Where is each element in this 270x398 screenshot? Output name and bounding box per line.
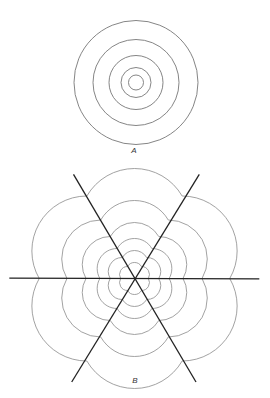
figure-b-label: B (132, 376, 137, 385)
tangent-arc (32, 196, 87, 279)
tangent-arc (97, 279, 117, 309)
tangent-arc (168, 279, 207, 338)
tangent-arc (87, 169, 182, 196)
tangent-arc (182, 279, 237, 362)
tangent-arc (182, 196, 237, 279)
tangent-arc (62, 279, 101, 338)
tangent-arc (101, 337, 169, 356)
tangent-arc (128, 291, 142, 295)
tangent-arc (120, 279, 128, 291)
concentric-circles-figure (74, 21, 198, 145)
tangent-arc (117, 239, 152, 249)
tangent-arc (82, 279, 110, 321)
figure-a-label: A (131, 146, 136, 155)
tangent-arc (110, 321, 159, 335)
tangent-arc (152, 279, 172, 309)
tangent-arc (159, 237, 187, 279)
diagram-canvas (0, 0, 270, 398)
tangent-arc (168, 220, 207, 279)
tangent-arc (122, 251, 146, 258)
tangent-arc (62, 220, 101, 279)
tangent-arc (152, 249, 172, 279)
tangent-arc (117, 309, 152, 319)
tangent-arc (108, 258, 122, 279)
concentric-circle (121, 68, 151, 98)
tangent-arc (147, 258, 161, 279)
tangent-arc (108, 279, 122, 300)
concentric-circle (109, 56, 163, 110)
tangent-arc (32, 279, 87, 362)
tangent-arc (101, 201, 169, 220)
tangent-arc (141, 279, 149, 291)
tangent-arc (141, 267, 149, 279)
tangent-arc (147, 279, 161, 300)
tangent-arc (97, 249, 117, 279)
tangent-arc (159, 279, 187, 321)
concentric-circle (93, 40, 179, 126)
web-arcs-figure (9, 169, 259, 389)
tangent-arc (128, 262, 142, 266)
tangent-arc (110, 222, 159, 236)
tangent-arc (120, 267, 128, 279)
tangent-arc (82, 237, 110, 279)
intersecting-lines (9, 174, 259, 382)
tangent-arc (122, 300, 146, 307)
concentric-circle (129, 75, 144, 90)
